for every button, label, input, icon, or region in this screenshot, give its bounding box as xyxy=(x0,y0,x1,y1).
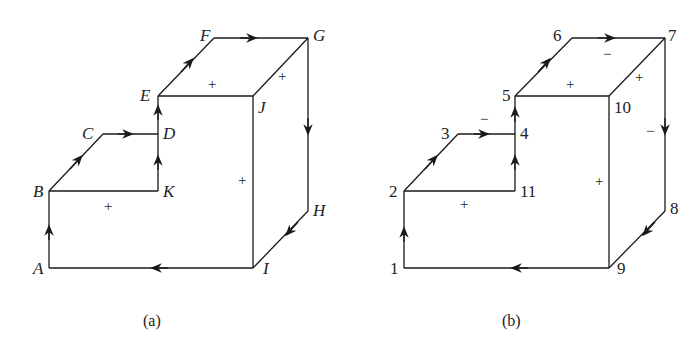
node-label-D: D xyxy=(162,124,176,143)
edge-10-7 xyxy=(609,38,665,96)
diagram-canvas: A B C D E F G H I J K + + + + (a) xyxy=(0,0,700,350)
node-label-F: F xyxy=(199,26,211,45)
node-label-7: 7 xyxy=(668,26,677,45)
sign-right-side-minus: − xyxy=(646,123,654,139)
node-label-I: I xyxy=(262,259,270,278)
arrow-diag-icon xyxy=(181,62,190,72)
node-label-4: 4 xyxy=(520,124,529,143)
arrow-diag-down-icon xyxy=(646,222,655,232)
node-label-1: 1 xyxy=(390,259,399,278)
caption-a: (a) xyxy=(143,312,161,330)
sign-top-face: + xyxy=(208,76,216,92)
edge-5-6 xyxy=(515,38,572,96)
sign-front-face: + xyxy=(595,173,603,189)
edge-J-G xyxy=(253,38,308,96)
node-label-9: 9 xyxy=(617,259,626,278)
arrow-diag-down-icon xyxy=(289,222,298,232)
sign-right-top-edge: + xyxy=(278,68,286,84)
arrow-diag-icon xyxy=(70,159,79,169)
arrow-icons xyxy=(49,38,308,268)
figure-a: A B C D E F G H I J K + + + + (a) xyxy=(32,26,327,330)
node-label-6: 6 xyxy=(553,26,562,45)
arrow-icons xyxy=(404,38,665,268)
node-label-3: 3 xyxy=(441,124,450,143)
sign-step-face: + xyxy=(460,196,468,212)
diagram-svg: A B C D E F G H I J K + + + + (a) xyxy=(0,0,700,350)
node-label-2: 2 xyxy=(389,182,398,201)
node-label-11: 11 xyxy=(520,182,536,201)
sign-top-face-plus: + xyxy=(566,76,574,92)
figure-b: 1 2 3 4 5 6 7 8 9 10 11 + − + − − + + (b… xyxy=(389,26,679,330)
node-label-C: C xyxy=(82,124,94,143)
sign-top-face-minus: − xyxy=(603,46,611,62)
caption-b: (b) xyxy=(502,312,521,330)
edge-H-I xyxy=(253,211,308,268)
arrow-diag-icon xyxy=(425,159,434,169)
node-label-10: 10 xyxy=(614,98,631,117)
sign-front-face: + xyxy=(238,172,246,188)
sign-step-top-minus: − xyxy=(480,111,488,127)
node-label-G: G xyxy=(313,26,325,45)
node-label-J: J xyxy=(258,98,267,117)
node-label-8: 8 xyxy=(670,199,679,218)
node-label-E: E xyxy=(139,86,151,105)
arrow-diag-icon xyxy=(538,62,547,72)
node-label-5: 5 xyxy=(502,86,511,105)
sign-step-face: + xyxy=(104,198,112,214)
node-label-A: A xyxy=(32,259,44,278)
node-label-B: B xyxy=(33,182,44,201)
node-label-K: K xyxy=(162,182,176,201)
sign-right-top-edge: + xyxy=(635,69,643,85)
node-label-H: H xyxy=(312,201,327,220)
